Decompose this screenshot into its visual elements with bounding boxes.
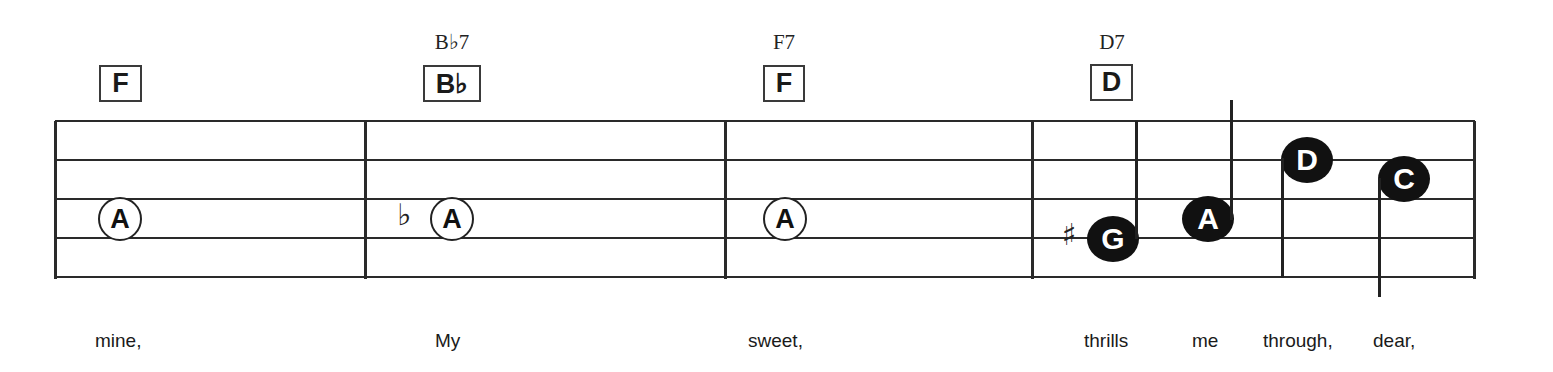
chord-name-4: D7 <box>1082 30 1142 55</box>
barline-end <box>1473 121 1476 279</box>
barline-3 <box>1031 121 1034 279</box>
note-g-sharp-filled: G <box>1087 216 1139 262</box>
note-d-filled: D <box>1281 137 1333 183</box>
staff-line-1 <box>55 120 1475 122</box>
chord-name-3: F7 <box>754 30 814 55</box>
stem-a <box>1230 100 1233 220</box>
lyric-7: dear, <box>1373 330 1415 352</box>
lyric-3: sweet, <box>748 330 803 352</box>
chord-box-2: B♭ <box>423 65 481 102</box>
note-a-open-1: A <box>98 197 142 241</box>
staff-line-2 <box>55 159 1475 161</box>
staff-line-4 <box>55 237 1475 239</box>
staff-line-3 <box>55 198 1475 200</box>
note-c-filled: C <box>1378 156 1430 202</box>
chord-box-1: F <box>99 65 142 102</box>
lyric-6: through, <box>1263 330 1333 352</box>
lyric-2: My <box>435 330 460 352</box>
lyric-5: me <box>1192 330 1218 352</box>
note-a-filled: A <box>1182 196 1234 242</box>
barline-start <box>54 121 57 279</box>
barline-2 <box>724 121 727 279</box>
sharp-icon: ♯ <box>1062 220 1077 250</box>
stem-g <box>1135 121 1138 239</box>
lyric-4: thrills <box>1084 330 1128 352</box>
chord-box-3: F <box>763 65 805 102</box>
flat-icon: ♭ <box>397 200 411 230</box>
lyric-1: mine, <box>95 330 141 352</box>
staff-line-5 <box>55 276 1475 278</box>
chord-box-4: D <box>1090 64 1133 101</box>
stem-c <box>1378 178 1381 297</box>
barline-1 <box>364 121 367 279</box>
stem-d <box>1281 158 1284 278</box>
note-a-open-3: A <box>763 197 807 241</box>
chord-name-2: B♭7 <box>422 30 482 55</box>
note-a-open-2: A <box>430 197 474 241</box>
